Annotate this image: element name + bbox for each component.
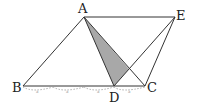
diagram-canvas: a a a a <box>0 0 200 109</box>
label-c: C <box>147 81 157 94</box>
segment-ec <box>145 17 175 86</box>
shaded-triangle <box>84 17 129 86</box>
equal-arcs <box>23 87 145 90</box>
segment-de <box>114 17 175 86</box>
geometry-diagram: a a a a A E B C D <box>0 0 200 109</box>
svg-text:a: a <box>128 89 131 94</box>
label-b: B <box>12 81 22 94</box>
label-a: A <box>78 2 87 15</box>
label-d: D <box>109 91 119 104</box>
segment-ab <box>23 17 84 86</box>
label-e: E <box>176 9 186 22</box>
